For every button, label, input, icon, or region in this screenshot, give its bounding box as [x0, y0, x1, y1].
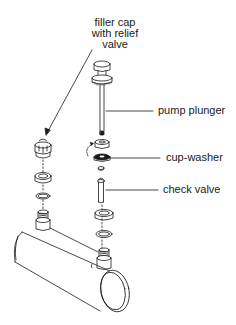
tank-cylinder — [14, 228, 133, 314]
right-o-ring-part — [96, 231, 112, 238]
pump-plunger-label: pump plunger — [158, 105, 225, 116]
cup-washer-label: cup-washer — [166, 152, 223, 163]
left-tank-fitting — [36, 210, 50, 231]
filler-cap-leader — [45, 50, 92, 135]
pump-plunger-part — [92, 61, 112, 135]
right-tank-fitting — [91, 248, 111, 270]
washer-part — [94, 154, 110, 162]
rotation-arrow — [87, 144, 93, 156]
check-valve-label: check valve — [163, 184, 220, 195]
cup-part — [95, 140, 109, 149]
clip-part — [98, 167, 104, 171]
check-valve-part — [98, 178, 105, 203]
left-o-ring-part — [36, 193, 50, 199]
filler-cap-part — [35, 139, 51, 158]
filler-cap-label-line-3: valve — [65, 39, 165, 50]
right-nut-part — [95, 210, 113, 221]
left-nut-part — [35, 173, 51, 184]
